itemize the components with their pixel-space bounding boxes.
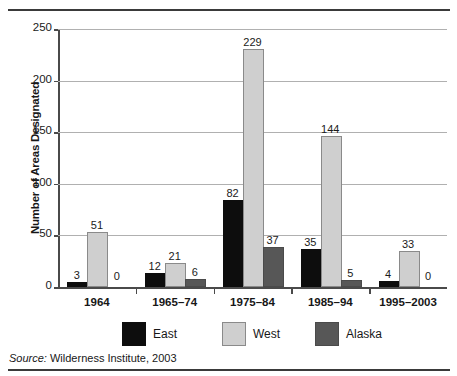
bar-east-1964 (67, 282, 88, 287)
bar-value-label: 0 (99, 270, 134, 282)
bar-alaska-1975-84 (263, 247, 284, 287)
legend-swatch-west (222, 322, 246, 346)
gridline-250 (58, 29, 447, 30)
legend-item-west[interactable]: West (222, 322, 280, 346)
x-tick-label-1995-2003: 1995–2003 (348, 296, 457, 308)
y-tick-label-100: 100 (12, 176, 52, 188)
bar-alaska-1985-94 (341, 280, 362, 287)
legend-swatch-east (122, 322, 146, 346)
bar-east-1965-74 (145, 273, 166, 287)
source-note: Source: Wilderness Institute, 2003 (9, 352, 177, 364)
x-group-tick (369, 288, 371, 294)
bar-value-label: 5 (333, 267, 368, 279)
bar-value-label: 0 (411, 270, 446, 282)
legend-label-alaska: Alaska (346, 327, 382, 341)
bar-value-label: 37 (255, 234, 290, 246)
legend-swatch-alaska (315, 322, 339, 346)
y-tick-label-150: 150 (12, 124, 52, 136)
bar-east-1995-2003 (379, 281, 400, 287)
bar-east-1975-84 (223, 200, 244, 287)
y-tick-label-250: 250 (12, 21, 52, 33)
bar-value-label: 51 (79, 219, 114, 231)
bar-value-label: 21 (157, 250, 192, 262)
x-group-tick (214, 288, 216, 294)
x-group-tick (136, 288, 138, 294)
x-group-tick (291, 288, 293, 294)
legend-item-alaska[interactable]: Alaska (315, 322, 382, 346)
legend-item-east[interactable]: East (122, 322, 177, 346)
legend-label-east: East (153, 327, 177, 341)
bar-alaska-1965-74 (185, 279, 206, 287)
top-divider-rule (8, 9, 450, 11)
bottom-divider-rule (8, 369, 450, 371)
chart-figure: Number of Areas Designated 0501001502002… (0, 0, 457, 376)
source-text: Wilderness Institute, 2003 (47, 352, 177, 364)
source-label: Source: (9, 352, 47, 364)
y-tick-label-50: 50 (12, 227, 52, 239)
bar-value-label: 229 (235, 36, 270, 48)
chart-legend: EastWestAlaska (0, 322, 457, 348)
legend-label-west: West (253, 327, 280, 341)
plot-area: 35101221682229373514454330 (58, 29, 447, 287)
bar-west-1975-84 (243, 49, 264, 287)
bar-value-label: 6 (177, 266, 212, 278)
gridline-0 (58, 287, 447, 288)
bar-value-label: 144 (313, 123, 348, 135)
bar-east-1985-94 (301, 249, 322, 287)
bar-value-label: 33 (391, 238, 426, 250)
y-tick-label-0: 0 (12, 279, 52, 291)
bar-west-1985-94 (321, 136, 342, 287)
y-tick-label-200: 200 (12, 73, 52, 85)
